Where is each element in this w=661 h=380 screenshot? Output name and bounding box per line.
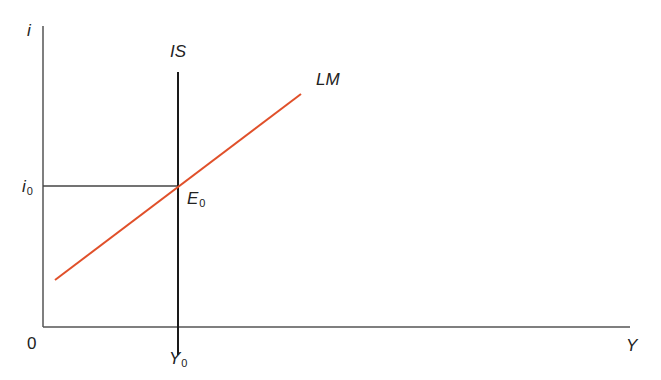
is-lm-diagram — [0, 0, 661, 380]
origin-label: 0 — [27, 335, 36, 352]
lm-curve-label: LM — [316, 71, 340, 88]
y0-label: Y0 — [169, 350, 187, 369]
i0-label: i0 — [22, 178, 33, 197]
x-axis-label: Y — [626, 337, 637, 354]
y-axis-label: i — [27, 22, 31, 39]
equilibrium-point-label: E0 — [187, 190, 205, 209]
is-curve-label: IS — [170, 43, 186, 60]
